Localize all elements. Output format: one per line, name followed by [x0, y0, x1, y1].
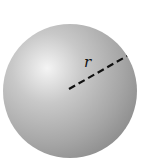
radius-label: r: [84, 53, 92, 71]
sphere: [3, 24, 137, 158]
sphere-diagram: r: [0, 0, 156, 165]
